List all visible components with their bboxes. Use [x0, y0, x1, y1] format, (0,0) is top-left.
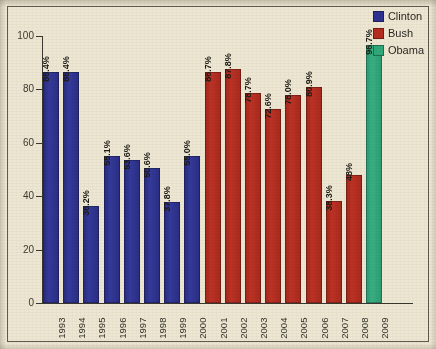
- bar-2003[interactable]: 78.7%: [245, 93, 261, 303]
- x-tick-label-text: 2004: [279, 318, 289, 339]
- bar-1995[interactable]: 36.2%: [83, 206, 99, 303]
- x-tick-label-text: 1999: [178, 318, 188, 339]
- bar-value-label: 38.3%: [325, 185, 334, 211]
- legend-swatch-bush: [373, 28, 384, 39]
- x-tick-label-text: 2002: [238, 318, 248, 339]
- bar-2001[interactable]: 86.7%: [205, 72, 221, 303]
- x-axis-labels: 1993199419951996199719981999200020012002…: [42, 305, 413, 345]
- bar-value-label: 72.6%: [264, 93, 273, 119]
- y-tick-label: 60: [0, 138, 34, 148]
- x-axis-line: [42, 303, 413, 304]
- y-tick-label: 20: [0, 245, 34, 255]
- bars-area: 86.4%86.4%36.2%55.1%53.6%50.6%37.8%55.0%…: [42, 36, 413, 303]
- bar-value-label: 37.8%: [163, 186, 172, 212]
- bar-fill: [184, 156, 200, 303]
- legend-item-obama[interactable]: Obama: [373, 44, 424, 57]
- bar-2004[interactable]: 72.6%: [265, 109, 281, 303]
- y-tick-label: 80: [0, 84, 34, 94]
- x-tick-label-text: 1998: [158, 318, 168, 339]
- bar-1994[interactable]: 86.4%: [63, 72, 79, 303]
- bar-2000[interactable]: 55.0%: [184, 156, 200, 303]
- legend-swatch-obama: [373, 45, 384, 56]
- x-tick-label-text: 2008: [360, 318, 370, 339]
- x-tick-label-text: 1997: [137, 318, 147, 339]
- y-tick-label: 100: [0, 31, 34, 41]
- bar-fill: [83, 206, 99, 303]
- bar-value-label: 55.0%: [183, 140, 192, 166]
- bar-fill: [63, 72, 79, 303]
- bar-value-label: 86.7%: [204, 56, 213, 82]
- x-tick-label-text: 2000: [198, 318, 208, 339]
- legend-label-bush: Bush: [388, 28, 413, 39]
- bar-fill: [366, 45, 382, 303]
- bar-fill: [205, 72, 221, 303]
- bar-fill: [346, 175, 362, 303]
- bar-fill: [306, 87, 322, 303]
- bar-1993[interactable]: 86.4%: [43, 72, 59, 303]
- x-tick-label-text: 2001: [218, 318, 228, 339]
- bar-fill: [104, 156, 120, 303]
- bar-fill: [124, 160, 140, 303]
- x-tick-label-text: 1993: [57, 318, 67, 339]
- bar-fill: [326, 201, 342, 303]
- bar-2005[interactable]: 78.0%: [285, 95, 301, 303]
- x-tick-label-text: 1996: [117, 318, 127, 339]
- bar-fill: [265, 109, 281, 303]
- bar-1996[interactable]: 55.1%: [104, 156, 120, 303]
- bar-fill: [144, 168, 160, 303]
- x-tick-label-text: 2006: [319, 318, 329, 339]
- bar-value-label: 87.8%: [224, 53, 233, 79]
- bar-value-label: 86.4%: [62, 57, 71, 83]
- legend: ClintonBushObama: [373, 10, 424, 61]
- bar-value-label: 55.1%: [103, 140, 112, 166]
- bar-2006[interactable]: 80.9%: [306, 87, 322, 303]
- chart-container: 020406080100 86.4%86.4%36.2%55.1%53.6%50…: [0, 0, 436, 349]
- x-tick-label-text: 2003: [259, 318, 269, 339]
- bar-2007[interactable]: 38.3%: [326, 201, 342, 303]
- legend-item-clinton[interactable]: Clinton: [373, 10, 424, 23]
- bar-fill: [43, 72, 59, 303]
- x-tick-label-text: 1994: [77, 318, 87, 339]
- bar-value-label: 36.2%: [82, 191, 91, 217]
- y-tick-label: 40: [0, 191, 34, 201]
- x-tick-label-text: 1995: [97, 318, 107, 339]
- bar-value-label: 50.6%: [143, 152, 152, 178]
- bar-value-label: 78.7%: [244, 77, 253, 103]
- y-tick-mark: [36, 303, 42, 304]
- legend-swatch-clinton: [373, 11, 384, 22]
- x-tick-label-text: 2009: [380, 318, 390, 339]
- bar-1999[interactable]: 37.8%: [164, 202, 180, 303]
- bar-value-label: 78.0%: [284, 79, 293, 105]
- bar-2002[interactable]: 87.8%: [225, 69, 241, 303]
- bar-fill: [164, 202, 180, 303]
- legend-item-bush[interactable]: Bush: [373, 27, 424, 40]
- bar-value-label: 48%: [345, 163, 354, 181]
- bar-1998[interactable]: 50.6%: [144, 168, 160, 303]
- legend-label-obama: Obama: [388, 45, 424, 56]
- bar-fill: [225, 69, 241, 303]
- bar-value-label: 80.9%: [305, 71, 314, 97]
- y-tick-label: 0: [0, 298, 34, 308]
- x-tick-label-text: 2007: [339, 318, 349, 339]
- bar-value-label: 86.4%: [42, 57, 51, 83]
- x-tick-label-text: 2005: [299, 318, 309, 339]
- bar-value-label: 53.6%: [123, 144, 132, 170]
- bar-2008[interactable]: 48%: [346, 175, 362, 303]
- legend-label-clinton: Clinton: [388, 11, 422, 22]
- bar-fill: [245, 93, 261, 303]
- bar-1997[interactable]: 53.6%: [124, 160, 140, 303]
- bar-2009[interactable]: 96.7%: [366, 45, 382, 303]
- bar-fill: [285, 95, 301, 303]
